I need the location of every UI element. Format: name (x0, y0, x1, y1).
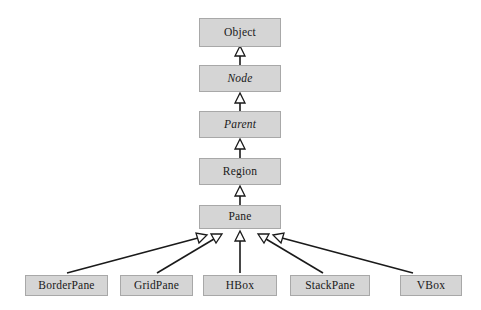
class-label-borderpane: BorderPane (38, 280, 94, 292)
edge-hbox-to-pane (235, 231, 245, 273)
class-label-region: Region (223, 166, 257, 178)
class-box-vbox[interactable]: VBox (400, 275, 462, 296)
class-label-parent: Parent (224, 119, 256, 131)
class-label-object: Object (224, 27, 256, 39)
class-label-gridpane: GridPane (134, 280, 179, 292)
class-box-borderpane[interactable]: BorderPane (25, 275, 108, 296)
class-label-pane: Pane (228, 211, 251, 223)
class-box-hbox[interactable]: HBox (203, 275, 277, 296)
class-label-node: Node (227, 73, 252, 85)
class-box-stackpane[interactable]: StackPane (290, 275, 370, 296)
class-label-stackpane: StackPane (305, 280, 355, 292)
class-hierarchy-diagram: Object Node Parent Region Pane BorderPan… (0, 0, 481, 310)
class-label-vbox: VBox (417, 280, 445, 292)
edge-parent-to-node (235, 93, 245, 111)
class-box-region[interactable]: Region (199, 158, 281, 185)
class-box-node[interactable]: Node (199, 65, 281, 92)
class-box-pane[interactable]: Pane (199, 205, 281, 229)
edge-borderpane-to-pane (67, 233, 207, 273)
class-box-parent[interactable]: Parent (199, 111, 281, 138)
class-label-hbox: HBox (226, 280, 254, 292)
class-box-object[interactable]: Object (199, 18, 281, 47)
class-box-gridpane[interactable]: GridPane (120, 275, 193, 296)
edge-pane-to-region (235, 186, 245, 205)
edge-region-to-parent (235, 139, 245, 158)
edge-node-to-object (235, 46, 245, 65)
edge-vbox-to-pane (273, 233, 413, 273)
